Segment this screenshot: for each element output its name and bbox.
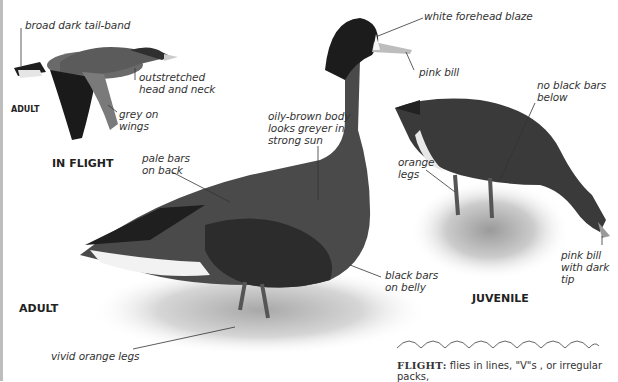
caption-adult: ADULT	[19, 302, 58, 315]
label-pale-bars: pale bars on back	[142, 152, 190, 176]
label-no-black-bars: no black bars below	[537, 79, 606, 103]
label-pink-bill: pink bill	[419, 66, 459, 78]
caption-flight-adult: ADULT	[11, 105, 40, 114]
caption-juvenile: JUVENILE	[472, 292, 529, 305]
label-orange-legs: orange legs	[398, 156, 434, 180]
label-head-neck: outstretched head and neck	[139, 71, 215, 95]
label-forehead-blaze: white forehead blaze	[424, 10, 533, 22]
label-tail-band: broad dark tail-band	[25, 19, 130, 31]
label-grey-wings: grey on wings	[119, 108, 158, 132]
label-juvenile-bill: pink bill with dark tip	[561, 249, 609, 285]
flight-heading: FLIGHT:	[397, 360, 447, 371]
flight-note: FLIGHT: flies in lines, "V"s , or irregu…	[397, 360, 618, 382]
flight-wave	[397, 341, 599, 348]
caption-in-flight: IN FLIGHT	[52, 157, 113, 170]
label-body: oily-brown body looks greyer in strong s…	[268, 110, 350, 146]
label-vivid-legs: vivid orange legs	[51, 350, 139, 362]
label-black-bars: black bars on belly	[385, 269, 438, 293]
